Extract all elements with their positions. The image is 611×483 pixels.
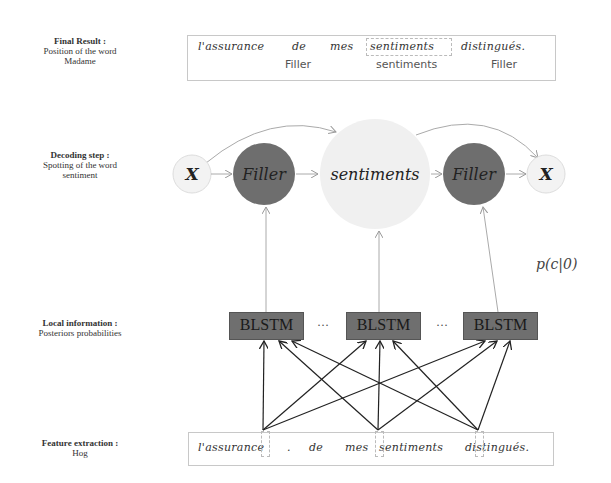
hw-word: de xyxy=(309,441,323,454)
hw-word: mes xyxy=(345,441,369,454)
blstm-box-1: BLSTM xyxy=(229,312,304,340)
diagram-graphics xyxy=(0,0,611,483)
probability-label: p(c|0) xyxy=(536,256,577,272)
node-filler-2: Filler xyxy=(452,165,496,184)
blstm-box-3: BLSTM xyxy=(463,312,538,340)
node-x-end: X xyxy=(539,164,552,184)
hw-word: l'assurance xyxy=(198,441,264,454)
hw-word: . xyxy=(287,441,291,454)
hog-frame-1 xyxy=(261,431,270,457)
node-keyword-sentiments: sentiments xyxy=(330,165,419,184)
hw-word: sentiments xyxy=(379,441,443,454)
feature-box: l'assurance . de mes sentiments distingu… xyxy=(188,432,554,466)
hog-frame-3 xyxy=(475,431,484,457)
ellipsis: ··· xyxy=(436,318,448,333)
node-filler-1: Filler xyxy=(242,165,286,184)
hog-frame-2 xyxy=(375,431,384,457)
ellipsis: ··· xyxy=(317,318,329,333)
node-x-start: X xyxy=(185,164,198,184)
blstm-box-2: BLSTM xyxy=(346,312,421,340)
